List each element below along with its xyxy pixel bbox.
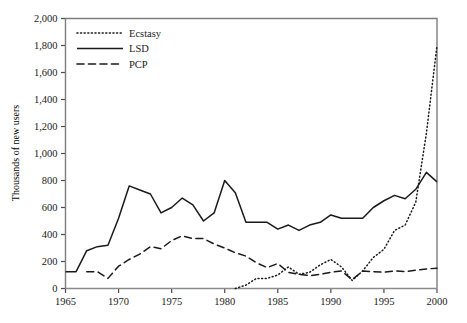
x-tick-label: 1995 — [373, 296, 394, 307]
x-tick-label: 1990 — [320, 296, 341, 307]
y-tick-label: 400 — [42, 229, 58, 240]
x-tick-label: 1965 — [55, 296, 76, 307]
y-tick-label: 1,200 — [34, 121, 58, 132]
y-tick-label: 1,400 — [34, 94, 58, 105]
series-line-lsd — [66, 172, 438, 271]
series-line-ecstasy — [235, 46, 437, 289]
legend-label-ecstasy: Ecstasy — [129, 28, 162, 39]
plot-frame — [66, 19, 438, 289]
y-tick-label: 1,800 — [34, 40, 58, 51]
y-axis-label: Thousands of new users — [10, 105, 21, 201]
x-tick-label: 1985 — [267, 296, 288, 307]
x-tick-label: 1980 — [214, 296, 235, 307]
y-axis-label-text: Thousands of new users — [10, 105, 21, 201]
chart-legend: EcstasyLSDPCP — [77, 28, 162, 70]
y-tick-label: 600 — [42, 202, 58, 213]
x-axis-ticks: 19651970197519801985199019952000 — [55, 289, 448, 307]
data-series-group — [66, 46, 438, 289]
x-tick-label: 1970 — [108, 296, 129, 307]
series-line-pcp — [87, 236, 437, 280]
y-axis-ticks: 02004006008001,0001,2001,4001,6001,8002,… — [34, 13, 66, 294]
y-tick-label: 800 — [42, 175, 58, 186]
y-tick-label: 0 — [52, 283, 57, 294]
x-tick-label: 2000 — [427, 296, 448, 307]
y-tick-label: 2,000 — [34, 13, 58, 24]
line-chart: Thousands of new users 02004006008001,00… — [0, 0, 467, 323]
y-tick-label: 1,600 — [34, 67, 58, 78]
legend-label-lsd: LSD — [129, 43, 149, 54]
x-tick-label: 1975 — [161, 296, 182, 307]
legend-label-pcp: PCP — [129, 59, 148, 70]
y-tick-label: 1,000 — [34, 148, 58, 159]
y-tick-label: 200 — [42, 256, 58, 267]
chart-container: Thousands of new users 02004006008001,00… — [0, 0, 467, 323]
